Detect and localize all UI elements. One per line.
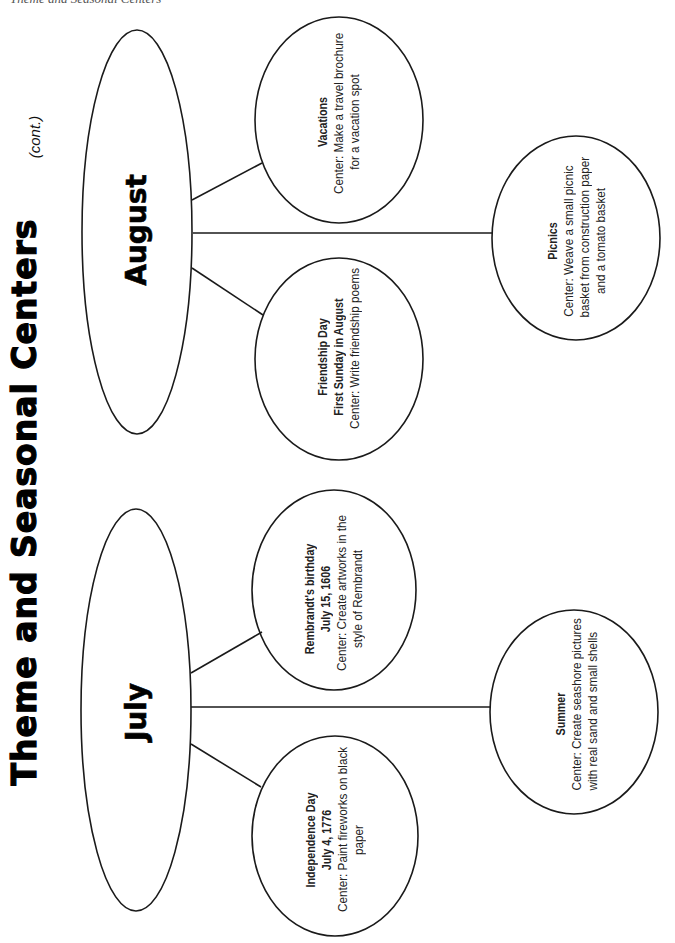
center-description: and a tomato basket — [593, 165, 609, 318]
center-rembrandt-birthday: Rembrandt's birthday July 15, 1606 Cente… — [302, 519, 366, 679]
center-heading: July 15, 1606 — [318, 530, 334, 668]
title-suffix: (cont.) — [25, 112, 45, 162]
center-independence-day: Independence Day July 4, 1776 Center: Pa… — [303, 760, 367, 920]
connector-august-friendship — [192, 268, 263, 315]
center-description: style of Rembrandt — [350, 527, 366, 671]
center-heading: Picnics — [545, 168, 561, 314]
center-heading: Vacations — [315, 53, 331, 191]
center-heading: Summer — [553, 641, 569, 787]
center-description: with real sand and small shells — [585, 638, 601, 791]
center-picnics: Picnics Center: Weave a small picnic bas… — [545, 156, 609, 326]
center-description: Center: Paint fireworks on black — [335, 768, 351, 912]
center-heading: July 4, 1776 — [319, 771, 335, 909]
center-vacations: Vacations Center: Make a travel brochure… — [315, 42, 363, 202]
center-heading: First Sunday in August — [331, 288, 347, 426]
page-title: Theme and Seasonal Centers — [5, 192, 45, 812]
center-heading: Friendship Day — [315, 288, 331, 426]
center-description: Center: Make a travel brochure — [331, 50, 347, 194]
center-heading: Rembrandt's birthday — [302, 530, 318, 668]
month-label-july: July — [119, 662, 155, 762]
connector-july-independence — [191, 744, 261, 787]
center-description: Center: Weave a small picnic — [561, 165, 577, 318]
center-description: Center: Create artworks in the — [334, 527, 350, 671]
center-description: Center: Create seashore pictures — [569, 638, 585, 791]
center-description: Center: Write friendship poems — [347, 285, 363, 429]
center-heading: Independence Day — [303, 771, 319, 909]
center-friendship-day: Friendship Day First Sunday in August Ce… — [315, 277, 363, 437]
center-description: paper — [351, 768, 367, 912]
month-label-august: August — [119, 170, 155, 290]
center-description: for a vacation spot — [347, 50, 363, 194]
connector-august-vacations — [192, 163, 262, 200]
connector-july-rembrandt — [191, 632, 262, 673]
center-description: basket from construction paper — [577, 165, 593, 318]
center-summer: Summer Center: Create seashore pictures … — [553, 629, 601, 799]
